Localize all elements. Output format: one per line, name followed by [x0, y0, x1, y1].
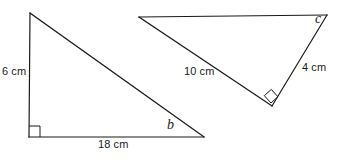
- label-6cm: 6 cm: [2, 66, 26, 77]
- left-triangle-vertical-leg: [29, 13, 30, 137]
- left-triangle: [29, 13, 204, 137]
- left-triangle-right-angle-marker: [29, 126, 40, 137]
- label-4cm: 4 cm: [302, 62, 326, 73]
- triangles-canvas: [0, 0, 338, 160]
- label-18cm: 18 cm: [98, 139, 128, 150]
- label-angle-b: b: [167, 118, 174, 132]
- label-angle-c: c: [315, 12, 321, 26]
- right-triangle-top-edge: [139, 15, 327, 17]
- label-10cm: 10 cm: [184, 66, 214, 77]
- left-triangle-hypotenuse: [30, 13, 204, 137]
- geometry-figure: 6 cm 18 cm b 10 cm 4 cm c: [0, 0, 338, 160]
- right-triangle: [139, 15, 327, 106]
- right-triangle-long-leg: [139, 17, 272, 106]
- right-triangle-right-angle-marker: [264, 89, 278, 103]
